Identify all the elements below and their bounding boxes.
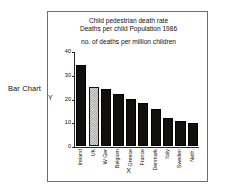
bar (138, 103, 148, 146)
y-axis-label: Y (48, 94, 53, 101)
plot-area: Y 010203040 (74, 52, 199, 147)
chart-title-line-2: Deaths per child Population 1986 (48, 25, 209, 33)
bar-slot (162, 51, 174, 146)
x-category-label: Neth. (190, 149, 195, 162)
bar (188, 123, 198, 146)
bar (163, 118, 173, 147)
y-tick-mark (72, 147, 75, 148)
x-label-slot: Ireland (75, 149, 87, 181)
screenshot-root: Bar Chart Child pedestrian death rate De… (0, 0, 227, 196)
x-label-slot: Denmark (149, 149, 161, 181)
chart-title-line-1: Child pedestrian death rate (48, 17, 209, 25)
bar-slot (137, 51, 149, 146)
x-label-slot: Greece (125, 149, 137, 181)
y-tick-label: 10 (54, 120, 71, 126)
y-tick-label: 40 (54, 49, 71, 55)
x-axis-line (74, 147, 199, 148)
bar (89, 87, 99, 146)
bar-slot (125, 51, 137, 146)
plot-wrapper: Y 010203040 (74, 52, 199, 149)
bar-slot (149, 51, 161, 146)
bar-slot (112, 51, 124, 146)
chart-title-block: Child pedestrian death rate Deaths per c… (48, 17, 209, 33)
x-category-label: W Ger (103, 149, 108, 164)
y-tick-label: 30 (54, 73, 71, 79)
bar (126, 99, 136, 147)
bar (175, 121, 185, 146)
bar-slot (87, 51, 99, 146)
x-label-slot: Sweden (174, 149, 186, 181)
x-category-label: Ireland (79, 149, 84, 165)
x-label-slot: UK (87, 149, 99, 181)
chart-subtitle: no. of deaths per million children (48, 38, 209, 45)
bar (113, 94, 123, 146)
x-category-label: France (141, 149, 146, 166)
x-axis-label: X (48, 167, 209, 174)
x-category-label: Italy (165, 149, 170, 159)
x-category-label: UK (91, 149, 96, 156)
bar (151, 109, 161, 146)
x-label-slot: France (137, 149, 149, 181)
x-label-slot: Neth. (187, 149, 199, 181)
x-category-label: Belgium (116, 149, 121, 168)
bar-slot (75, 51, 87, 146)
bar (76, 65, 86, 146)
x-category-label-group: IrelandUKW GerBelgiumGreeceFranceDenmark… (75, 149, 199, 181)
y-tick-label: 0 (54, 144, 71, 150)
bar-slot (187, 51, 199, 146)
x-label-slot: Belgium (112, 149, 124, 181)
x-label-slot: W Ger (100, 149, 112, 181)
chart-frame: Child pedestrian death rate Deaths per c… (47, 11, 208, 182)
x-label-slot: Italy (162, 149, 174, 181)
bar-chart-caption: Bar Chart (8, 84, 48, 93)
y-tick-label: 20 (54, 97, 71, 103)
x-category-label: Greece (128, 149, 133, 166)
bar-slot (100, 51, 112, 146)
bar (101, 89, 111, 146)
x-category-label: Sweden (178, 149, 183, 168)
bar-group (75, 51, 199, 146)
bar-slot (174, 51, 186, 146)
